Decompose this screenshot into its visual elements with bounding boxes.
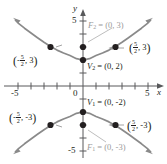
focus-upper-subscript: 2	[93, 24, 96, 30]
point-focus-lower	[80, 122, 86, 128]
point-lower-left-label: (-52, -3)	[9, 111, 36, 125]
point-upper-right	[112, 44, 118, 50]
fraction-denominator: 2	[133, 47, 138, 54]
fraction-five-halves: 52	[131, 119, 136, 133]
focus-lower-label: F1 = (0, -3)	[87, 143, 126, 152]
point-lower-right	[112, 122, 118, 128]
fraction-denominator: 2	[131, 125, 136, 132]
fraction-five-halves: 52	[16, 111, 21, 125]
vertex-upper-coords: (0, 2)	[104, 61, 122, 71]
y-axis	[80, 9, 87, 158]
vertex-upper-subscript: 2	[92, 65, 95, 71]
close-paren: )	[32, 111, 36, 125]
vertex-lower-equals: =	[97, 97, 102, 107]
y-axis-label: y	[73, 4, 77, 13]
vertex-upper-label: V2 = (0, 2)	[87, 62, 123, 71]
fraction-five-halves: 52	[20, 54, 25, 68]
fraction-denominator: 2	[20, 60, 25, 67]
focus-upper-label: F2 = (0, 3)	[88, 21, 124, 30]
close-paren: )	[33, 54, 37, 68]
point-vertex-upper	[80, 57, 86, 63]
close-paren: )	[147, 41, 151, 55]
focus-upper-equals: =	[98, 20, 103, 30]
vertex-lower-subscript: 1	[92, 101, 95, 107]
close-paren: )	[147, 119, 151, 133]
point-lower-right-label: (52, -3)	[127, 119, 151, 133]
x-axis-label: x	[157, 88, 161, 97]
point-upper-left-label: (-52, 3)	[13, 54, 37, 68]
x-axis	[4, 83, 164, 90]
focus-lower-equals: =	[97, 142, 102, 152]
vertex-lower-coords: (0, -2)	[104, 97, 125, 107]
hyperbola-figure: y x -5 5 0 5 -5 F2 = (0, 3) V2 = (0, 2) …	[0, 0, 167, 164]
focus-upper-coords: (0, 3)	[105, 20, 123, 30]
focus-lower-coords: (0, -3)	[104, 142, 125, 152]
y-tick-label-neg5: -5	[68, 146, 76, 155]
point-upper-left	[47, 44, 53, 50]
point-vertex-lower	[80, 109, 86, 115]
origin-label: 0	[73, 89, 78, 98]
point-upper-right-label: (52, 3)	[129, 41, 151, 55]
point-lower-left	[47, 122, 53, 128]
vertex-upper-equals: =	[97, 61, 102, 71]
fraction-five-halves: 52	[133, 41, 138, 55]
x-tick-label-neg5: -5	[11, 89, 19, 98]
point-focus-upper	[80, 44, 86, 50]
vertex-lower-label: V1 = (0, -2)	[87, 98, 126, 107]
focus-lower-subscript: 1	[92, 146, 95, 152]
y-tick-label-pos5: 5	[72, 16, 77, 25]
graph-canvas	[0, 0, 167, 164]
fraction-denominator: 2	[16, 117, 21, 124]
x-tick-label-pos5: 5	[145, 89, 150, 98]
